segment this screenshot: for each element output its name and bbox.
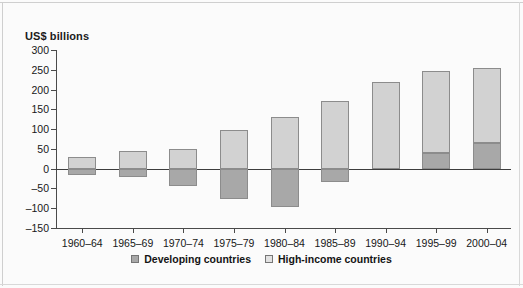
- y-tick-label: –150: [26, 222, 49, 234]
- y-tick-mark: [51, 70, 56, 71]
- bar-segment-developing: [271, 169, 299, 208]
- y-tick-label: 250: [31, 64, 49, 76]
- x-tick-label: 1965–69: [112, 237, 153, 249]
- x-tick-mark: [285, 228, 286, 233]
- y-tick-label: –50: [31, 182, 49, 194]
- x-tick-label: 1995–99: [416, 237, 457, 249]
- x-tick-mark: [82, 228, 83, 233]
- x-tick-mark: [386, 228, 387, 233]
- bar-segment-high-income: [220, 130, 248, 168]
- x-tick-label: 1985–89: [315, 237, 356, 249]
- legend-label: Developing countries: [144, 253, 251, 265]
- bar-segment-developing: [119, 169, 147, 177]
- bar-segment-developing: [321, 169, 349, 182]
- y-tick-mark: [51, 109, 56, 110]
- y-tick-label: 150: [31, 103, 49, 115]
- y-tick-mark: [51, 208, 56, 209]
- bar-segment-high-income: [169, 149, 197, 169]
- y-tick-label: –100: [26, 202, 49, 214]
- y-tick-label: 200: [31, 84, 49, 96]
- legend-label: High-income countries: [278, 253, 392, 265]
- x-tick-label: 1970–74: [163, 237, 204, 249]
- bar-segment-high-income: [321, 101, 349, 169]
- figure-border-top: [0, 2, 523, 3]
- figure-border-left: [2, 2, 3, 286]
- x-tick-mark: [436, 228, 437, 233]
- bar-segment-high-income: [473, 68, 501, 143]
- x-tick-mark: [234, 228, 235, 233]
- x-tick-label: 1990–94: [365, 237, 406, 249]
- y-tick-label: 50: [37, 143, 49, 155]
- bar-segment-high-income: [68, 157, 96, 169]
- bar-segment-developing: [473, 143, 501, 169]
- legend-swatch-icon: [265, 255, 273, 263]
- x-tick-mark: [335, 228, 336, 233]
- bar-segment-developing: [169, 169, 197, 187]
- chart-figure: US$ billions 300250200150100500–50–100–1…: [0, 0, 523, 288]
- legend-item-high-income: High-income countries: [265, 253, 392, 265]
- y-tick-mark: [51, 129, 56, 130]
- y-axis-line: [56, 50, 57, 228]
- x-tick-label: 1960–64: [62, 237, 103, 249]
- bar-segment-developing: [422, 153, 450, 169]
- y-tick-mark: [51, 188, 56, 189]
- legend-swatch-icon: [131, 255, 139, 263]
- x-tick-mark: [487, 228, 488, 233]
- x-tick-label: 1975–79: [213, 237, 254, 249]
- bar-segment-developing: [68, 169, 96, 175]
- x-tick-label: 2000–04: [466, 237, 507, 249]
- y-tick-label: 0: [43, 163, 49, 175]
- y-tick-label: 300: [31, 44, 49, 56]
- figure-border-bottom: [0, 284, 523, 285]
- y-tick-label: 100: [31, 123, 49, 135]
- bar-segment-high-income: [119, 151, 147, 169]
- x-tick-mark: [183, 228, 184, 233]
- chart-legend: Developing countries High-income countri…: [0, 253, 523, 265]
- plot-area: 300250200150100500–50–100–150 1960–64196…: [56, 50, 511, 228]
- bar-segment-high-income: [271, 117, 299, 168]
- x-tick-mark: [133, 228, 134, 233]
- bar-segment-high-income: [372, 82, 400, 168]
- y-tick-mark: [51, 149, 56, 150]
- bar-segment-developing: [220, 169, 248, 199]
- legend-item-developing: Developing countries: [131, 253, 251, 265]
- x-tick-label: 1980–84: [264, 237, 305, 249]
- y-tick-mark: [51, 90, 56, 91]
- bar-segment-high-income: [422, 71, 450, 153]
- x-axis-line: [56, 228, 511, 229]
- y-tick-mark: [51, 50, 56, 51]
- y-axis-title: US$ billions: [25, 30, 89, 42]
- figure-border-right: [519, 2, 520, 286]
